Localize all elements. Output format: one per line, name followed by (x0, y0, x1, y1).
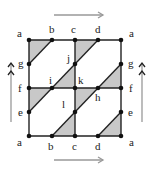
label-i: i (49, 74, 52, 86)
label-j: j (66, 52, 70, 64)
label-top-d: d (95, 23, 101, 35)
label-left-f: f (18, 82, 22, 94)
label-right-g: g (128, 57, 134, 69)
label-bottom-c: c (72, 140, 77, 152)
label-h: h (95, 91, 101, 103)
label-top-b: b (49, 23, 55, 35)
label-right-e: e (128, 106, 133, 118)
label-bottom-a-left: a (17, 136, 22, 148)
bottom-arrow-icon (54, 157, 103, 163)
label-bottom-a-right: a (129, 136, 134, 148)
label-bottom-d: d (95, 140, 101, 152)
torus-triangulation-diagram: a b c d a g f e g f e a b c d a j i k h … (0, 0, 154, 175)
label-left-e: e (18, 106, 23, 118)
top-arrow-icon (54, 12, 103, 18)
label-top-c: c (71, 23, 76, 35)
right-double-arrow-icon (139, 63, 145, 122)
label-top-a-left: a (17, 27, 22, 39)
label-right-f: f (129, 82, 133, 94)
label-l: l (62, 98, 65, 110)
label-left-g: g (18, 57, 24, 69)
left-double-arrow-icon (8, 63, 14, 122)
label-top-a-right: a (129, 27, 134, 39)
label-k: k (78, 74, 84, 86)
label-bottom-b: b (48, 140, 54, 152)
